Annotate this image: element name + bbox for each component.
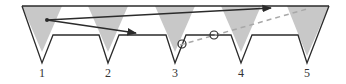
label-3: 3 — [172, 67, 178, 79]
label-5: 5 — [304, 67, 310, 79]
arrow-short — [47, 20, 136, 33]
label-2: 2 — [105, 67, 111, 79]
shaded-triangle-4 — [221, 6, 261, 52]
label-4: 4 — [238, 67, 244, 79]
label-1: 1 — [39, 67, 45, 79]
shaded-triangle-1 — [22, 6, 62, 52]
